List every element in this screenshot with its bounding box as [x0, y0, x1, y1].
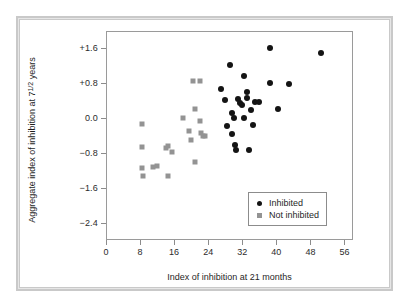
data-point-inhibited	[239, 102, 245, 108]
data-point-inhibited	[267, 80, 273, 86]
x-axis-tick	[242, 240, 243, 245]
chart-legend: Inhibited Not inhibited	[248, 192, 327, 226]
data-point-not-inhibited	[140, 122, 145, 127]
y-axis-title-fraction: 1/2	[27, 82, 34, 92]
data-point-not-inhibited	[191, 79, 196, 84]
legend-label-not-inhibited: Not inhibited	[269, 210, 319, 220]
data-point-not-inhibited	[197, 79, 202, 84]
x-axis-tick-label: 40	[271, 247, 281, 257]
data-point-inhibited	[250, 122, 256, 128]
data-point-inhibited	[256, 99, 262, 105]
data-point-inhibited	[246, 147, 252, 153]
x-axis-tick-label: 56	[339, 247, 349, 257]
x-axis-tick	[140, 240, 141, 245]
x-axis-tick	[106, 240, 107, 245]
x-axis-tick	[344, 240, 345, 245]
fraction-numerator: 1	[27, 88, 34, 92]
data-point-inhibited	[248, 107, 254, 113]
x-axis-tick-label: 24	[203, 247, 213, 257]
x-axis-title: Index of inhibition at 21 months	[106, 272, 353, 282]
y-axis-tick-label: 0.0	[85, 113, 98, 123]
y-axis-tick-label: −1.6	[79, 183, 98, 193]
data-point-not-inhibited	[189, 138, 194, 143]
x-axis-tick-label: 8	[138, 247, 143, 257]
legend-item-not-inhibited[interactable]: Not inhibited	[254, 209, 319, 221]
x-axis-tick	[310, 240, 311, 245]
data-point-not-inhibited	[187, 128, 192, 133]
data-point-not-inhibited	[155, 163, 160, 168]
x-axis-tick	[174, 240, 175, 245]
y-axis-tick-label: +1.6	[79, 43, 98, 53]
data-point-not-inhibited	[193, 160, 198, 165]
data-point-inhibited	[231, 115, 237, 121]
figure-root: +1.6+0.80.0−0.8−1.6−2.4 08162432404856 A…	[0, 0, 409, 307]
data-point-not-inhibited	[192, 106, 197, 111]
y-axis-tick	[101, 118, 106, 119]
y-axis-tick	[101, 153, 106, 154]
x-axis-tick-label: 16	[169, 247, 179, 257]
data-point-not-inhibited	[140, 165, 145, 170]
y-axis-tick	[101, 188, 106, 189]
y-axis-tick-label: −0.8	[79, 148, 98, 158]
data-point-inhibited	[224, 123, 230, 129]
x-axis-tick-label: 48	[305, 247, 315, 257]
data-point-inhibited	[233, 147, 239, 153]
fraction-denominator: 2	[27, 82, 34, 86]
y-axis-title: Aggregate index of inhibition at 71/2 ye…	[27, 55, 37, 225]
data-point-inhibited	[229, 131, 235, 137]
data-point-inhibited	[267, 45, 273, 51]
x-axis-tick-label: 32	[237, 247, 247, 257]
data-point-not-inhibited	[166, 173, 171, 178]
data-point-inhibited	[286, 81, 292, 87]
y-axis-tick	[101, 48, 106, 49]
data-point-inhibited	[218, 86, 224, 92]
data-point-not-inhibited	[140, 144, 145, 149]
data-point-not-inhibited	[180, 115, 185, 120]
data-point-inhibited	[241, 73, 247, 79]
data-point-inhibited	[244, 95, 250, 101]
data-point-not-inhibited	[197, 118, 202, 123]
y-axis-tick-label: −2.4	[79, 218, 98, 228]
y-axis-tick	[101, 223, 106, 224]
legend-square-marker-icon	[254, 213, 264, 218]
data-point-inhibited	[222, 97, 228, 103]
data-point-inhibited	[275, 106, 281, 112]
data-point-not-inhibited	[165, 143, 170, 148]
y-axis-title-suffix: years	[27, 57, 37, 82]
y-axis-tick-label: +0.8	[79, 78, 98, 88]
data-point-not-inhibited	[170, 150, 175, 155]
y-axis-title-prefix: Aggregate index of inhibition at 7	[27, 92, 37, 223]
data-point-inhibited	[318, 50, 324, 56]
data-point-inhibited	[227, 62, 233, 68]
x-axis-tick	[208, 240, 209, 245]
data-point-inhibited	[241, 115, 247, 121]
y-axis-tick	[101, 83, 106, 84]
data-point-inhibited	[244, 89, 250, 95]
legend-circle-marker-icon	[254, 201, 264, 206]
legend-label-inhibited: Inhibited	[269, 198, 303, 208]
data-point-not-inhibited	[202, 133, 207, 138]
x-axis-tick	[276, 240, 277, 245]
data-point-not-inhibited	[140, 173, 145, 178]
legend-item-inhibited[interactable]: Inhibited	[254, 197, 319, 209]
x-axis-tick-label: 0	[103, 247, 108, 257]
